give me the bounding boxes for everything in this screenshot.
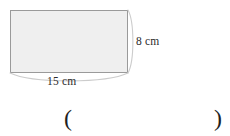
geometry-figure-canvas: 8 cm 15 cm ( ): [0, 0, 230, 136]
close-paren: ): [214, 106, 222, 130]
width-dimension-label: 15 cm: [47, 76, 76, 88]
answer-input[interactable]: [72, 118, 214, 119]
open-paren: (: [64, 106, 72, 130]
height-brace-arc: [128, 10, 133, 73]
answer-blank[interactable]: ( ): [64, 104, 222, 132]
rectangle-shape: [11, 11, 128, 73]
height-dimension-label: 8 cm: [136, 36, 159, 48]
